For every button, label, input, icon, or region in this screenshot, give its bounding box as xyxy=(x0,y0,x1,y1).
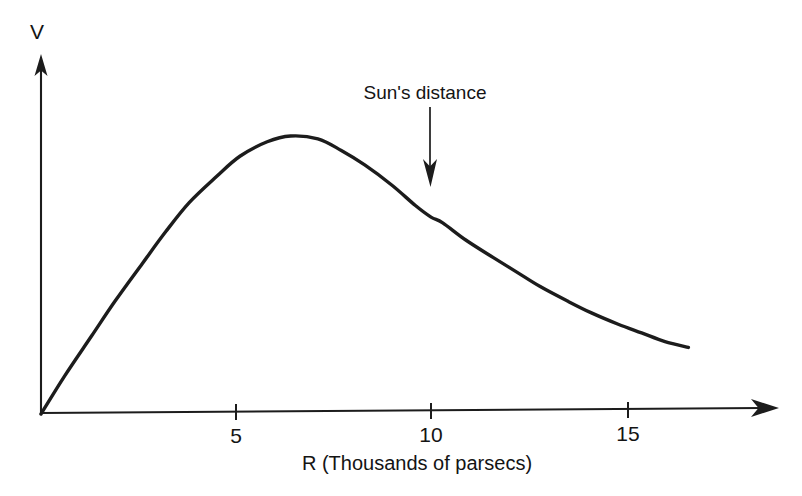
x-axis xyxy=(41,399,779,420)
data-series-rotation-curve xyxy=(41,136,688,414)
sun-distance-annotation: Sun's distance xyxy=(364,82,487,187)
x-axis-title: R (Thousands of parsecs) xyxy=(302,452,532,474)
x-axis-line xyxy=(41,408,762,413)
sun-distance-label: Sun's distance xyxy=(364,82,487,103)
y-axis-title: V xyxy=(30,20,44,43)
chart-canvas: Sun's distance 5 10 15 R (Thousands of p… xyxy=(0,0,802,496)
rotation-curve-figure: Sun's distance 5 10 15 R (Thousands of p… xyxy=(0,0,802,496)
y-axis xyxy=(35,54,48,414)
x-tick-label-15: 15 xyxy=(616,422,639,445)
curve-line xyxy=(41,136,688,414)
x-tick-label-10: 10 xyxy=(419,423,442,446)
x-tick-label-5: 5 xyxy=(230,424,242,447)
